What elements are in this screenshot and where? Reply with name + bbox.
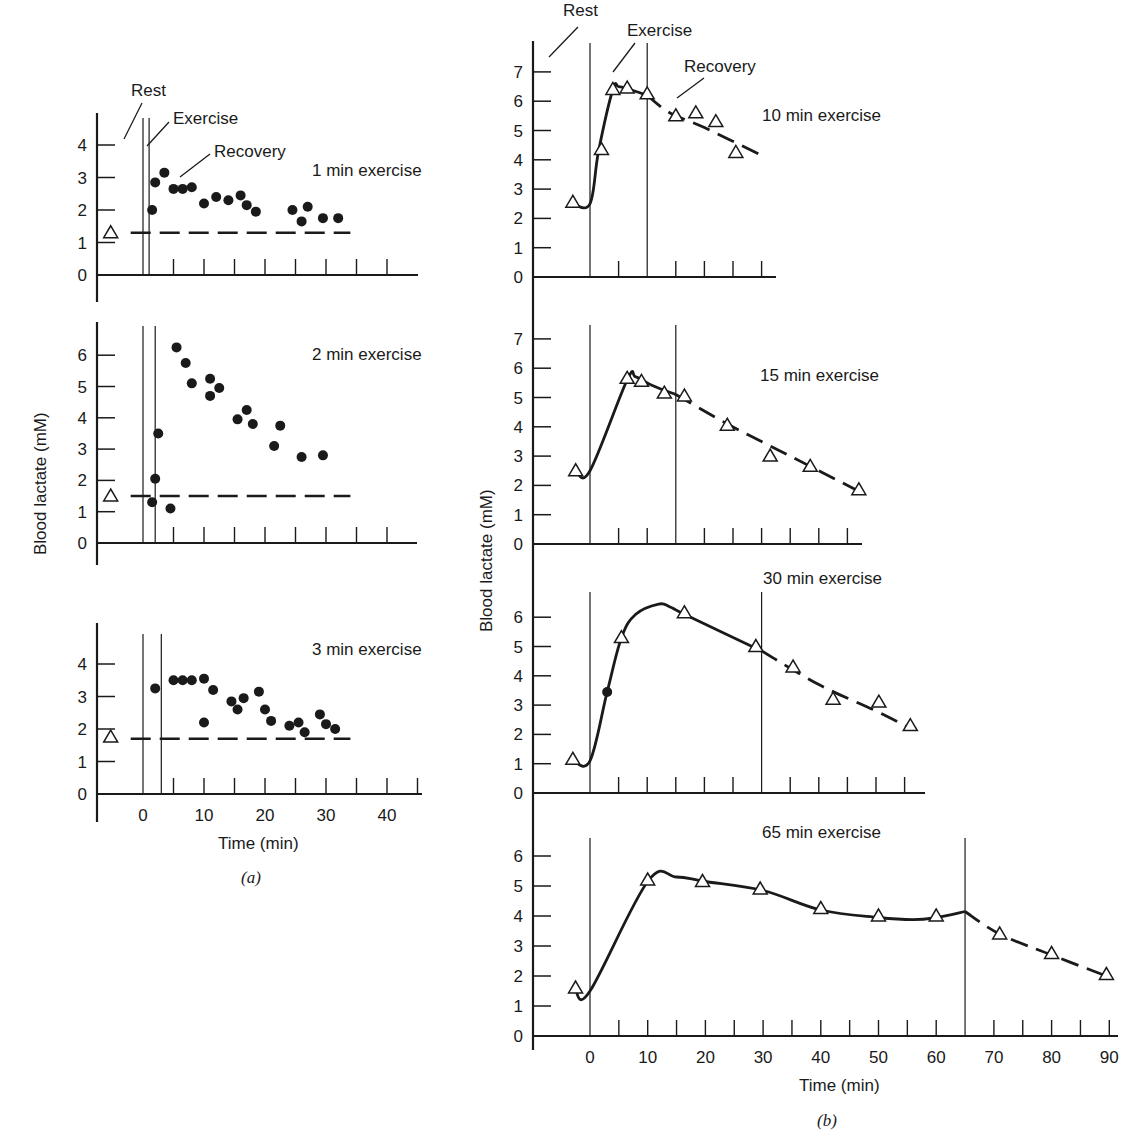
filled-circle-marker-icon xyxy=(172,342,182,352)
x-tick-label: 50 xyxy=(869,1048,888,1067)
filled-circle-marker-icon xyxy=(260,705,270,715)
filled-circle-marker-icon xyxy=(205,391,215,401)
filled-circle-marker-icon xyxy=(147,497,157,507)
filled-circle-marker-icon xyxy=(169,184,179,194)
exercise-curve-solid xyxy=(576,371,676,478)
panel-30-min-exercise: 012345630 min exercise xyxy=(514,569,925,803)
panel-title: 10 min exercise xyxy=(762,106,881,125)
y-tick-label: 0 xyxy=(78,785,87,804)
panel-title: 1 min exercise xyxy=(312,161,422,180)
y-tick-label: 6 xyxy=(514,847,523,866)
y-tick-label: 4 xyxy=(514,667,523,686)
filled-circle-marker-icon xyxy=(165,504,175,514)
triangle-marker-icon xyxy=(614,631,628,643)
filled-circle-marker-icon xyxy=(159,168,169,178)
y-tick-label: 0 xyxy=(78,534,87,553)
triangle-marker-icon xyxy=(729,145,743,157)
panel-65-min-exercise: 0123456010203040506070809065 min exercis… xyxy=(514,823,1119,1067)
filled-circle-marker-icon xyxy=(294,718,304,728)
rest-triangle-marker-icon xyxy=(104,489,118,501)
x-tick-label: 90 xyxy=(1100,1048,1119,1067)
filled-circle-marker-icon xyxy=(318,450,328,460)
filled-circle-marker-icon xyxy=(150,474,160,484)
y-tick-label: 7 xyxy=(514,330,523,349)
filled-circle-marker-icon xyxy=(178,675,188,685)
x-axis-title-b: Time (min) xyxy=(799,1076,880,1095)
y-tick-label: 2 xyxy=(514,209,523,228)
filled-circle-marker-icon xyxy=(254,687,264,697)
y-tick-label: 5 xyxy=(514,877,523,896)
triangle-marker-icon xyxy=(689,106,703,118)
y-tick-label: 6 xyxy=(78,346,87,365)
y-tick-label: 3 xyxy=(78,169,87,188)
filled-circle-marker-icon xyxy=(233,414,243,424)
filled-circle-marker-icon xyxy=(178,184,188,194)
pointer-exercise-a xyxy=(147,122,169,146)
x-tick-label: 30 xyxy=(317,806,336,825)
x-tick-label: 10 xyxy=(638,1048,657,1067)
y-tick-label: 3 xyxy=(514,180,523,199)
part-label-b: (b) xyxy=(817,1111,837,1130)
filled-circle-marker-icon xyxy=(269,441,279,451)
recovery-curve-dashed xyxy=(676,395,859,492)
y-tick-label: 3 xyxy=(78,440,87,459)
panel-10-min-exercise: 0123456710 min exercise xyxy=(514,43,882,287)
filled-circle-marker-icon xyxy=(147,205,157,215)
filled-circle-marker-icon xyxy=(297,452,307,462)
recovery-curve-dashed xyxy=(965,912,1106,977)
filled-circle-marker-icon xyxy=(187,182,197,192)
rest-triangle-marker-icon xyxy=(104,226,118,238)
filled-circle-marker-icon xyxy=(153,428,163,438)
triangle-marker-icon xyxy=(720,418,734,430)
filled-circle-marker-icon xyxy=(330,724,340,734)
filled-circle-marker-icon xyxy=(199,718,209,728)
y-tick-label: 4 xyxy=(78,136,87,155)
y-tick-label: 3 xyxy=(514,696,523,715)
filled-circle-marker-icon xyxy=(199,674,209,684)
y-tick-label: 2 xyxy=(514,725,523,744)
pointer-recovery-a xyxy=(180,154,210,177)
panel-title: 65 min exercise xyxy=(762,823,881,842)
filled-circle-marker-icon xyxy=(205,374,215,384)
y-tick-label: 2 xyxy=(78,471,87,490)
y-tick-label: 3 xyxy=(514,937,523,956)
filled-circle-marker-icon xyxy=(284,721,294,731)
triangle-marker-icon xyxy=(763,449,777,461)
y-tick-label: 5 xyxy=(514,389,523,408)
recovery-curve-dashed xyxy=(647,95,761,155)
y-tick-label: 0 xyxy=(514,535,523,554)
annotation-exercise-b: Exercise xyxy=(627,21,692,40)
x-tick-label: 0 xyxy=(138,806,147,825)
x-tick-label: 80 xyxy=(1042,1048,1061,1067)
filled-circle-marker-icon xyxy=(300,727,310,737)
y-tick-label: 4 xyxy=(514,907,523,926)
triangle-marker-icon xyxy=(709,115,723,127)
y-tick-label: 1 xyxy=(514,239,523,258)
x-tick-label: 20 xyxy=(256,806,275,825)
x-tick-label: 60 xyxy=(927,1048,946,1067)
triangle-marker-icon xyxy=(569,464,583,476)
filled-circle-marker-icon xyxy=(266,716,276,726)
y-axis-title-b: Blood lactate (mM) xyxy=(477,489,496,632)
filled-circle-marker-icon xyxy=(150,683,160,693)
pointer-recovery-b xyxy=(677,78,704,98)
filled-circle-marker-icon xyxy=(226,696,236,706)
filled-circle-marker-icon xyxy=(211,192,221,202)
panel-title: 30 min exercise xyxy=(763,569,882,588)
filled-circle-marker-icon xyxy=(315,709,325,719)
triangle-marker-icon xyxy=(569,981,583,993)
filled-circle-marker-icon xyxy=(169,675,179,685)
chart-canvas: 012341 min exercise 01234562 min exercis… xyxy=(0,0,1142,1146)
annotation-rest-b: Rest xyxy=(563,1,598,20)
y-tick-label: 1 xyxy=(514,755,523,774)
y-tick-label: 1 xyxy=(514,506,523,525)
filled-circle-marker-icon xyxy=(251,207,261,217)
figure: 012341 min exercise 01234562 min exercis… xyxy=(0,0,1142,1146)
y-tick-label: 6 xyxy=(514,608,523,627)
y-tick-label: 1 xyxy=(78,753,87,772)
x-tick-label: 30 xyxy=(754,1048,773,1067)
exercise-curve-solid xyxy=(576,871,965,1000)
filled-circle-marker-icon xyxy=(208,685,218,695)
y-tick-label: 6 xyxy=(514,359,523,378)
filled-circle-marker-icon xyxy=(248,419,258,429)
